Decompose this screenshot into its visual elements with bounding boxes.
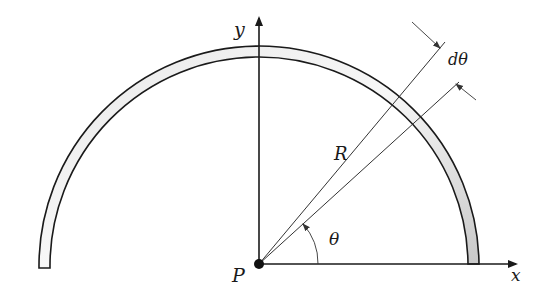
- theta-label: θ: [329, 229, 339, 249]
- ring-diagram: y x P R θ dθ: [0, 0, 549, 294]
- x-axis-label: x: [511, 265, 521, 285]
- dtheta-label: dθ: [448, 50, 468, 69]
- origin-label: P: [231, 264, 246, 286]
- theta-arc: [303, 224, 318, 264]
- radius-label: R: [333, 143, 348, 164]
- y-axis-label: y: [233, 18, 245, 40]
- origin-point: [254, 259, 264, 269]
